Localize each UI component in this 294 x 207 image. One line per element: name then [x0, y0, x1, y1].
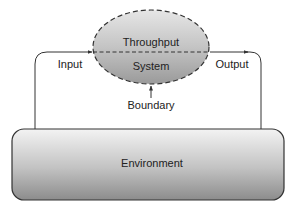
systems-diagram: Throughput System Input Output Boundary … — [0, 0, 294, 207]
environment-label: Environment — [121, 157, 183, 169]
output-label: Output — [215, 58, 248, 70]
boundary-label: Boundary — [127, 99, 175, 111]
system-label: System — [133, 60, 170, 72]
throughput-label: Throughput — [123, 36, 179, 48]
input-label: Input — [58, 58, 82, 70]
